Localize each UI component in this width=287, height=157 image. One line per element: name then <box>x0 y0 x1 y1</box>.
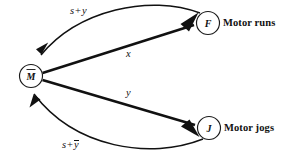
node-f[interactable]: F <box>197 12 220 35</box>
edge-label-s-plus-ybar-ybar: y <box>74 139 79 151</box>
state-transition-diagram: M F J s+y x y s+y Motor runs Motor jogs <box>0 0 287 157</box>
edge-m-to-j <box>43 80 200 137</box>
edge-label-s-plus-y-y: y <box>82 5 87 16</box>
node-m-label: M <box>26 71 37 82</box>
node-j-label: J <box>206 123 213 134</box>
edge-label-y-text: y <box>126 87 131 98</box>
edge-m-to-j-path <box>43 80 196 125</box>
node-m[interactable]: M <box>20 65 43 88</box>
edge-label-s-plus-ybar-operator: + <box>66 139 74 150</box>
edge-label-s-plus-y: s+y <box>70 6 87 17</box>
node-j-description: Motor jogs <box>224 123 274 134</box>
node-j[interactable]: J <box>198 117 221 140</box>
edge-label-x: x <box>126 49 131 60</box>
edge-label-s-plus-ybar: s+y <box>62 139 79 151</box>
edge-m-to-f <box>43 13 199 74</box>
node-f-description: Motor runs <box>223 18 275 29</box>
node-f-label: F <box>204 18 212 29</box>
edge-label-s-plus-y-operator: + <box>74 5 82 16</box>
edge-label-x-text: x <box>126 48 131 59</box>
edge-label-y: y <box>126 88 131 99</box>
